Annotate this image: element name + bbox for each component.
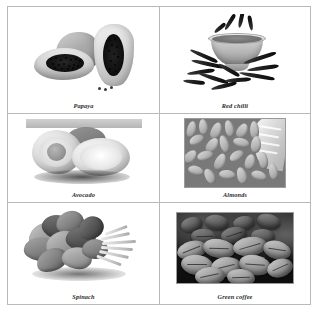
cell-caption-papaya: Papaya: [73, 103, 93, 113]
photo-wrap-spinach: [8, 203, 159, 294]
spinach-photo: [22, 209, 146, 287]
papaya-quarter-slice: [94, 24, 134, 86]
cell-caption-spinach: Spinach: [72, 294, 94, 304]
chilli-powder: [212, 35, 262, 43]
avocado-shadow: [34, 170, 130, 184]
grid-cell-spinach[interactable]: Spinach: [8, 202, 159, 304]
papaya-half-slice: [34, 48, 94, 80]
grid-cell-papaya[interactable]: Papaya: [8, 7, 159, 113]
photo-wrap-red-chilli: [160, 7, 310, 103]
red-chilli-photo: [181, 14, 289, 96]
grid-cell-avocado[interactable]: Avocado: [8, 113, 159, 202]
avocado-pit: [47, 143, 66, 161]
grid-cell-almonds[interactable]: Almonds: [159, 113, 310, 202]
photo-grid: Papaya: [8, 7, 310, 304]
photo-wrap-papaya: [8, 7, 159, 103]
avocado-flesh-right: [80, 144, 122, 170]
food-photo-grid-figure: Papaya: [7, 6, 311, 305]
avocado-flesh-left: [39, 137, 73, 167]
photo-wrap-almonds: [160, 114, 310, 192]
almonds-photo: [185, 119, 285, 187]
cell-caption-green-coffee: Green coffee: [217, 294, 252, 304]
papaya-photo: [28, 18, 140, 92]
grid-cell-red-chilli[interactable]: Red chilli: [159, 7, 310, 113]
papaya-half-seed-cavity: [46, 54, 84, 72]
avocado-photo: [26, 119, 142, 187]
grid-cell-green-coffee[interactable]: Green coffee: [159, 202, 310, 304]
papaya-quarter-seed-cavity: [103, 34, 124, 76]
spinach-shadow: [32, 267, 126, 281]
photo-wrap-avocado: [8, 114, 159, 192]
green-coffee-photo: [177, 213, 293, 283]
cell-caption-almonds: Almonds: [223, 192, 247, 202]
cell-caption-avocado: Avocado: [72, 192, 95, 202]
photo-wrap-green-coffee: [160, 203, 310, 294]
cell-caption-red-chilli: Red chilli: [222, 103, 249, 113]
